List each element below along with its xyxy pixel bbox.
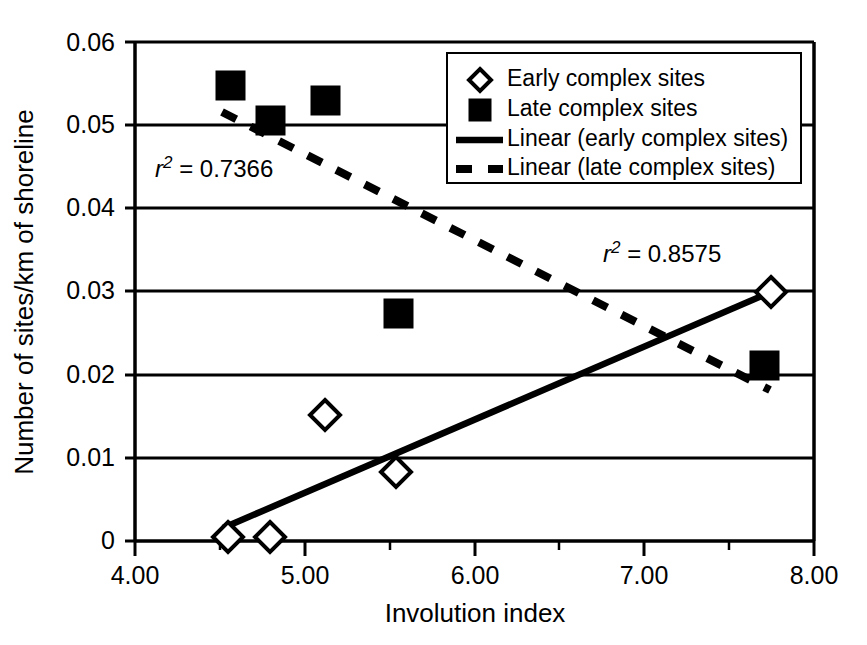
data-point-late-1 xyxy=(216,71,245,100)
legend-label-early-complex-sites: Early complex sites xyxy=(507,65,705,91)
data-point-late-2 xyxy=(256,106,285,135)
x-tick-label-5.00: 5.00 xyxy=(281,561,330,589)
data-point-late-5 xyxy=(750,351,779,380)
x-axis-title: Involution index xyxy=(385,598,566,628)
annotation-r2-late-value: 0.7366 xyxy=(200,155,273,182)
y-tick-label-0.04: 0.04 xyxy=(66,193,115,221)
annotation-r2-early: r2 = 0.8575 xyxy=(603,238,721,267)
legend-symbol-filled-square-icon xyxy=(469,99,491,121)
chart-canvas: 0.06 0.05 0.04 0.03 0.02 0.01 0 4.00 5.0… xyxy=(0,0,867,645)
y-tick-label-0.02: 0.02 xyxy=(66,360,115,388)
y-axis-title: Number of sites/km of shoreline xyxy=(9,109,39,475)
annotation-r2-early-exponent: 2 xyxy=(610,238,621,257)
annotation-r2-early-equals: = xyxy=(620,240,647,267)
y-tick-label-0.06: 0.06 xyxy=(66,28,115,56)
legend-label-linear-late-complex-sites: Linear (late complex sites) xyxy=(507,154,775,180)
chart-legend: Early complex sites Late complex sites L… xyxy=(447,53,801,183)
x-tick-label-8.00: 8.00 xyxy=(790,561,839,589)
chart-figure: 0.06 0.05 0.04 0.03 0.02 0.01 0 4.00 5.0… xyxy=(0,0,867,645)
x-tick-label-6.00: 6.00 xyxy=(451,561,500,589)
y-tick-label-0: 0 xyxy=(101,526,115,554)
data-point-late-4 xyxy=(384,299,413,328)
annotation-r2-late-equals: = xyxy=(172,155,199,182)
y-tick-label-0.01: 0.01 xyxy=(66,443,115,471)
y-tick-label-0.05: 0.05 xyxy=(66,110,115,138)
annotation-r2-early-value: 0.8575 xyxy=(648,240,721,267)
annotation-r2-late: r2 = 0.7366 xyxy=(155,153,273,182)
legend-label-late-complex-sites: Late complex sites xyxy=(507,95,697,121)
legend-label-linear-early-complex-sites: Linear (early complex sites) xyxy=(507,125,788,151)
x-tick-label-7.00: 7.00 xyxy=(620,561,669,589)
annotation-r2-late-exponent: 2 xyxy=(162,153,173,172)
x-tick-label-4.00: 4.00 xyxy=(111,561,160,589)
y-tick-label-0.03: 0.03 xyxy=(66,276,115,304)
data-point-late-3 xyxy=(311,86,340,115)
